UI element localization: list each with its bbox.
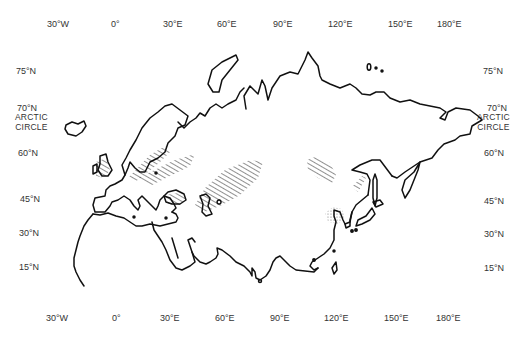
island-dot <box>381 70 383 72</box>
novaya-zemlya-outline <box>208 55 238 92</box>
east-asia-coast <box>310 195 368 270</box>
new-siberian-islands <box>367 64 371 70</box>
africa-west-coast <box>74 214 93 286</box>
hatch-central-siberia <box>307 157 336 183</box>
taiwan-outline <box>332 262 337 274</box>
siberia-arctic-coast <box>244 52 482 178</box>
hatched-areas <box>96 146 366 212</box>
island-dot <box>155 172 157 174</box>
island-dot <box>351 230 353 232</box>
japan-hokkaido <box>373 200 383 207</box>
island-dot <box>375 67 377 69</box>
iceland-outline <box>65 121 86 136</box>
eurasia-map <box>0 0 523 340</box>
island-dot <box>313 259 315 261</box>
kola-white-sea <box>178 88 244 128</box>
island-dot <box>355 229 357 231</box>
south-asia-coast <box>192 248 318 280</box>
island-dot <box>165 217 167 219</box>
ireland-outline <box>93 164 97 174</box>
hatch-manchuria <box>352 176 366 192</box>
red-sea-inner <box>172 238 178 258</box>
coastlines <box>65 52 482 286</box>
sri-lanka <box>259 280 262 283</box>
island-dot <box>133 216 135 218</box>
japan-honshu <box>356 208 375 226</box>
island-dot <box>333 250 335 252</box>
hatch-kazakh-steppe <box>195 160 263 212</box>
arabia-coast <box>152 222 195 270</box>
